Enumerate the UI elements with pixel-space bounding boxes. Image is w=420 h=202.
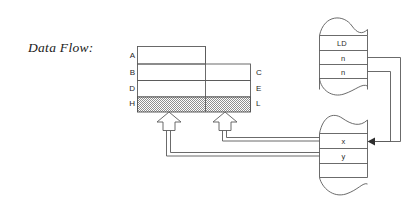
- memory-cell-x: x: [342, 137, 346, 146]
- row-label-c: C: [256, 68, 268, 77]
- up-arrows: [157, 112, 237, 131]
- top-register-torn-top: [320, 18, 368, 36]
- diagram-canvas: Data Flow:: [0, 0, 420, 202]
- right-loop-outer: [368, 58, 401, 142]
- data-flow-diagram: [0, 0, 420, 202]
- row-label-a: A: [123, 51, 135, 60]
- bottom-register-torn-bottom: [320, 178, 368, 195]
- instruction-cell-n2: n: [341, 68, 345, 77]
- right-loop-inner: [368, 72, 391, 142]
- row-label-e: E: [256, 84, 268, 93]
- row-label-b: B: [123, 68, 135, 77]
- left-bus-wires: [167, 125, 320, 156]
- row-a-cell: [138, 47, 206, 65]
- bottom-register-torn-top: [320, 115, 368, 133]
- instruction-cell-n1: n: [341, 54, 345, 63]
- row-d-cell: [138, 81, 251, 98]
- memory-block-outline: [138, 47, 251, 113]
- top-register-torn-bottom: [320, 79, 368, 96]
- memory-cell-y: y: [342, 152, 346, 161]
- row-h-cell: [138, 97, 251, 112]
- row-label-l: L: [256, 99, 268, 108]
- row-label-d: D: [123, 84, 135, 93]
- right-loop-wires: [368, 58, 401, 142]
- up-arrow-left: [157, 112, 181, 131]
- bus-x-strand-2: [227, 125, 320, 138]
- bus-x-to-right-arrow: [223, 131, 320, 142]
- up-arrow-right: [213, 112, 237, 131]
- row-b-cell: [138, 64, 251, 81]
- instruction-cell-ld: LD: [337, 39, 347, 48]
- row-label-h: H: [123, 99, 135, 108]
- bus-y-strand-2: [171, 125, 320, 153]
- arrowhead-into-x: [368, 138, 376, 146]
